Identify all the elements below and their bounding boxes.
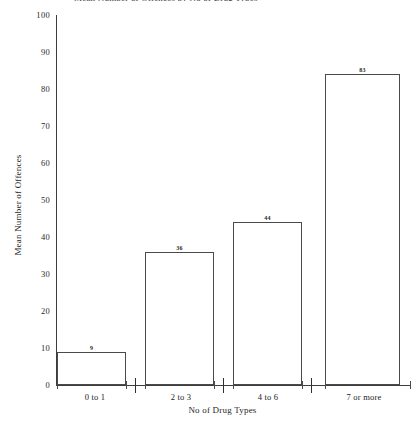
y-tick-label: 30 <box>24 269 50 279</box>
x-axis-edge-tick <box>145 381 146 389</box>
chart-title: Mean Number of Offences by No of Drug Ty… <box>74 0 258 1</box>
x-axis-title-text: No of Drug Types <box>160 405 256 415</box>
y-tick-label: 100 <box>24 10 50 20</box>
x-axis-edge-tick <box>214 381 215 389</box>
bar-7-or-more: 83 <box>325 74 400 385</box>
x-axis-title: No of Drug Types <box>0 405 417 415</box>
bar-value-label: 83 <box>359 67 365 73</box>
bar-value-label: 44 <box>264 215 270 221</box>
y-tick-label: 10 <box>24 343 50 353</box>
y-tick-label: 0 <box>24 380 50 390</box>
plot-area: 9 36 44 83 <box>56 15 411 385</box>
x-tick-label-0-to-1: 0 to 1 <box>85 392 106 402</box>
y-tick-label: 60 <box>24 158 50 168</box>
x-tick-label-7-or-more: 7 or more <box>347 392 382 402</box>
y-axis-title: Mean Number of Offences <box>13 105 23 305</box>
x-axis-edge-tick <box>233 381 234 389</box>
y-tick-label: 80 <box>24 84 50 94</box>
bar-value-label: 9 <box>90 345 93 351</box>
bar-2-to-3: 36 <box>145 252 214 385</box>
x-axis-edge-tick <box>126 381 127 389</box>
x-axis-category-tick <box>223 378 224 393</box>
x-axis-edge-tick <box>325 381 326 389</box>
y-tick-label: 40 <box>24 232 50 242</box>
x-tick-label-2-to-3: 2 to 3 <box>171 392 192 402</box>
x-axis-edge-tick <box>410 381 411 389</box>
bar-chart: Mean Number of Offences by No of Drug Ty… <box>0 0 417 425</box>
y-tick-label: 20 <box>24 306 50 316</box>
y-tick-label: 70 <box>24 121 50 131</box>
x-axis-category-tick <box>135 378 136 393</box>
bar-0-to-1: 9 <box>57 352 126 385</box>
x-axis-edge-tick <box>57 381 58 389</box>
bar-value-label: 36 <box>176 245 182 251</box>
bar-4-to-6: 44 <box>233 222 302 385</box>
y-tick-label: 90 <box>24 47 50 57</box>
y-tick-label: 50 <box>24 195 50 205</box>
x-axis-edge-tick <box>302 381 303 389</box>
x-tick-label-4-to-6: 4 to 6 <box>258 392 279 402</box>
y-axis-ticks: 100 90 80 70 60 50 40 30 20 10 0 <box>22 0 50 425</box>
x-axis-category-tick <box>311 378 312 393</box>
